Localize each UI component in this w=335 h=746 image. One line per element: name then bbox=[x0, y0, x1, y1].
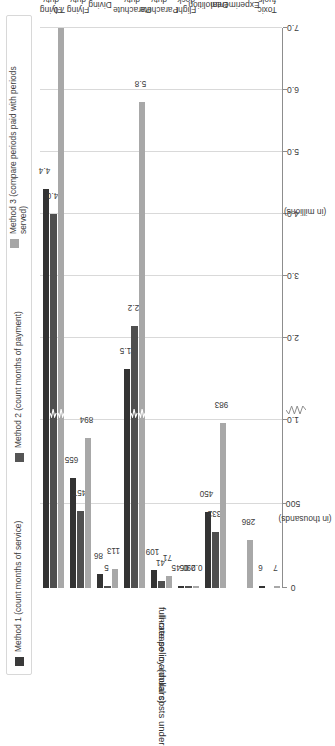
bar-value-label: 4.4 bbox=[27, 166, 61, 175]
bar bbox=[139, 102, 145, 588]
axis-tick-label: 500 bbox=[280, 499, 306, 509]
bar-value-label: 655 bbox=[54, 454, 88, 463]
bar bbox=[112, 569, 118, 588]
legend-label-method-1: Method 1 (count months of service) bbox=[14, 521, 24, 652]
bar bbox=[158, 581, 164, 588]
axis-tick-label: 6.0 bbox=[280, 85, 306, 95]
axis-tick-label: 5.0 bbox=[280, 147, 306, 157]
axis-break-icon bbox=[286, 405, 310, 415]
bar-value-label: 7 bbox=[259, 563, 293, 572]
bar bbox=[50, 214, 56, 588]
value-axis bbox=[40, 588, 283, 691]
bar bbox=[58, 28, 64, 588]
axis-tick-label: 1.0 bbox=[280, 415, 306, 425]
bar-value-label: 286 bbox=[232, 516, 266, 525]
legend-item-method-1: Method 1 (count months of service) bbox=[14, 476, 24, 666]
gridline bbox=[40, 151, 282, 152]
axis-tick-label: 7.0 bbox=[280, 23, 306, 33]
axis-tick-label: 3.0 bbox=[280, 271, 306, 281]
bar bbox=[185, 586, 191, 588]
category-label-line: fuels bbox=[258, 0, 276, 5]
bar bbox=[212, 532, 218, 588]
gridline bbox=[40, 337, 282, 338]
bar-break-icon bbox=[131, 408, 137, 418]
axis-tick-label: 0 bbox=[280, 583, 306, 593]
category-label-line: Toxic bbox=[257, 5, 276, 15]
axis-tick-mark bbox=[283, 27, 287, 28]
axis-tick-mark bbox=[283, 587, 287, 588]
bar bbox=[104, 586, 110, 588]
bar bbox=[166, 576, 172, 588]
bar bbox=[151, 570, 157, 588]
axis-tick-mark bbox=[283, 503, 287, 504]
bar bbox=[43, 189, 49, 588]
axis-unit-thousands: (in thousands) bbox=[275, 514, 335, 524]
legend-label-method-2: Method 2 (count months of payment) bbox=[14, 311, 24, 448]
legend-swatch-icon bbox=[15, 657, 24, 666]
bar-break-icon bbox=[124, 408, 130, 418]
bar bbox=[97, 574, 103, 588]
bar-value-label: 71 bbox=[151, 553, 185, 562]
bar-break-icon bbox=[50, 408, 56, 418]
legend-swatch-icon bbox=[10, 239, 19, 248]
gridline bbox=[40, 275, 282, 276]
legend-item-method-2: Method 2 (count months of payment) bbox=[14, 262, 24, 462]
plot-area: 4.44.07.06554578948651131.52.25.81094171… bbox=[40, 28, 283, 588]
legend-item-method-3: Method 3 (compare periods paid with peri… bbox=[9, 48, 28, 248]
chart-legend: Method 1 (count months of service) Metho… bbox=[6, 15, 32, 675]
category-label: Toxicfuelsduty bbox=[232, 0, 302, 15]
bar bbox=[205, 512, 211, 588]
axis-tick-mark bbox=[283, 337, 287, 338]
axis-unit-millions: (in millions) bbox=[275, 207, 335, 217]
axis-tick-mark bbox=[283, 151, 287, 152]
category-axis-labels: Flyingduty(crew)Flyingduty(noncrew)Divin… bbox=[40, 0, 283, 22]
bar bbox=[259, 586, 265, 588]
gridline bbox=[40, 503, 282, 504]
gridline bbox=[40, 89, 282, 90]
bar-break-icon bbox=[58, 408, 64, 418]
legend-swatch-icon bbox=[15, 453, 24, 462]
bar-value-label: 983 bbox=[205, 399, 239, 408]
axis-tick-mark bbox=[283, 419, 287, 420]
bar bbox=[178, 586, 184, 588]
bar bbox=[124, 369, 130, 588]
bar-value-label: 5.8 bbox=[124, 79, 158, 88]
gridline bbox=[40, 27, 282, 28]
axis-tick-label: 2.0 bbox=[280, 333, 306, 343]
bar-value-label: 450 bbox=[189, 489, 223, 498]
axis-tick-mark bbox=[283, 89, 287, 90]
bar-break-icon bbox=[139, 408, 145, 418]
legend-label-method-3: Method 3 (compare periods paid with peri… bbox=[9, 48, 28, 234]
gridline bbox=[40, 213, 282, 214]
axis-tick-mark bbox=[283, 275, 287, 276]
bar bbox=[193, 586, 199, 588]
bar-value-label: 894 bbox=[70, 414, 104, 423]
bar-break-icon bbox=[43, 408, 49, 418]
bar bbox=[220, 423, 226, 588]
